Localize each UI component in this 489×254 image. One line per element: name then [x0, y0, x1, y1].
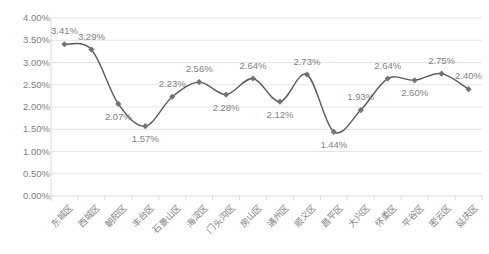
- y-axis-tick-label: 1.00%: [4, 147, 50, 157]
- data-point-label: 3.29%: [78, 32, 105, 42]
- y-axis-tick-label: 2.50%: [4, 80, 50, 90]
- data-point-label: 2.73%: [293, 57, 320, 67]
- data-point-label: 1.57%: [132, 134, 159, 144]
- data-point-label: 2.60%: [401, 88, 428, 98]
- data-point-label: 1.93%: [347, 92, 374, 102]
- data-point-label: 3.41%: [51, 26, 78, 36]
- data-point-label: 2.12%: [267, 110, 294, 120]
- data-point-label: 2.56%: [186, 64, 213, 74]
- data-point-label: 2.64%: [374, 61, 401, 71]
- data-point-marker[interactable]: [250, 75, 256, 81]
- data-point-marker[interactable]: [277, 99, 283, 105]
- y-axis-tick-label: 4.00%: [4, 13, 50, 23]
- data-point-label: 2.64%: [240, 61, 267, 71]
- data-point-label: 2.40%: [455, 71, 482, 81]
- data-point-label: 2.07%: [105, 112, 132, 122]
- y-axis-tick-label: 1.50%: [4, 124, 50, 134]
- data-point-marker[interactable]: [412, 77, 418, 83]
- y-axis-tick-label: 2.00%: [4, 102, 50, 112]
- data-point-label: 2.28%: [213, 103, 240, 113]
- data-point-marker[interactable]: [61, 41, 67, 47]
- y-axis-tick-label: 0.00%: [4, 191, 50, 201]
- data-point-marker[interactable]: [223, 91, 229, 97]
- y-axis-tick-label: 0.50%: [4, 169, 50, 179]
- data-point-label: 1.44%: [320, 140, 347, 150]
- data-point-label: 2.75%: [428, 56, 455, 66]
- data-point-marker[interactable]: [142, 123, 148, 129]
- line-chart: 4.00%3.50%3.00%2.50%2.00%1.50%1.00%0.50%…: [0, 0, 489, 254]
- y-axis-tick-label: 3.00%: [4, 58, 50, 68]
- data-point-label: 2.23%: [159, 79, 186, 89]
- y-axis-tick-labels: 4.00%3.50%3.00%2.50%2.00%1.50%1.00%0.50%…: [0, 0, 50, 254]
- data-point-marker[interactable]: [438, 71, 444, 77]
- y-axis-tick-label: 3.50%: [4, 35, 50, 45]
